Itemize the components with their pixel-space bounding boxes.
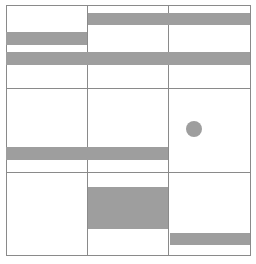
bar-top-right — [88, 13, 250, 25]
diagram-canvas — [0, 0, 256, 264]
bar-bottom-right — [170, 233, 250, 245]
grid-vertical-line-2 — [168, 5, 169, 256]
grid-horizontal-line-1 — [6, 88, 251, 89]
bar-full-width — [6, 52, 250, 65]
block-bottom-center — [88, 187, 168, 229]
bar-middle-left — [6, 147, 168, 160]
bar-left-short — [6, 32, 87, 45]
grid-horizontal-line-2 — [6, 172, 251, 173]
circle-marker — [186, 121, 202, 137]
